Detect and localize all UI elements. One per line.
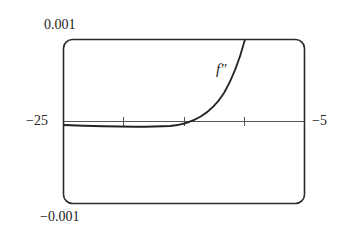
plot-area (0, 0, 352, 235)
y-max-label: 0.001 (44, 18, 76, 32)
curve-label: f″ (216, 62, 226, 76)
x-max-label: −5 (312, 114, 327, 128)
f-double-prime-curve (64, 40, 246, 127)
x-min-label: −25 (26, 114, 48, 128)
y-min-label: −0.001 (40, 210, 79, 224)
